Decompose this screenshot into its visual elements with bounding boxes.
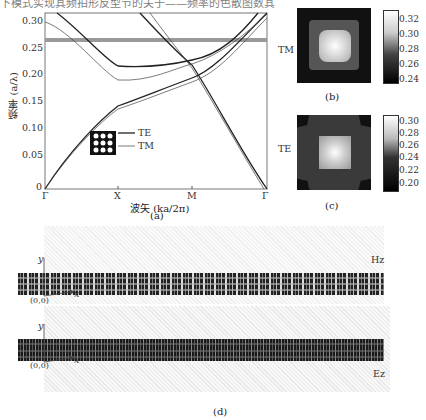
colorbar-tick: 0.30 xyxy=(399,29,419,39)
x-tick: X xyxy=(114,190,121,201)
colorbar-tick: 0.22 xyxy=(399,165,419,175)
y-tick: 0.10 xyxy=(22,122,43,133)
y-tick: 0.30 xyxy=(22,15,43,26)
te-colorbar xyxy=(383,115,399,192)
tm-field-image xyxy=(297,8,371,83)
y-tick: 0.20 xyxy=(22,68,43,79)
hz-origin-label: (0,0) xyxy=(30,296,49,305)
panel-c-label: (c) xyxy=(325,200,338,211)
legend-tm: TM xyxy=(138,140,154,151)
te-side-label: TE xyxy=(278,143,291,154)
colorbar-tick: 0.28 xyxy=(399,44,419,54)
colorbar-tick: 0.24 xyxy=(399,74,419,84)
field-propagation-panel: y x (0,0) Hz y x (0,0) Ez (d) xyxy=(0,226,426,420)
colorbar-tick: 0.28 xyxy=(399,128,419,138)
ez-origin-label: (0,0) xyxy=(30,361,49,370)
tm-colorbar xyxy=(383,10,399,84)
tm-mode-map: TM 0.32 0.30 0.28 0.26 0.24 (b) xyxy=(270,0,426,110)
panel-a-label: (a) xyxy=(150,210,164,221)
hz-field-label: Hz xyxy=(371,254,384,265)
colorbar-tick: 0.30 xyxy=(399,116,419,126)
ez-y-axis-label: y xyxy=(38,320,43,331)
y-tick: 0.15 xyxy=(22,95,43,106)
band-diagram: 0.30 0.25 0.20 0.15 0.10 0.05 0 频率 (a/λ)… xyxy=(0,0,270,220)
tm-side-label: TM xyxy=(278,44,294,55)
te-field-image xyxy=(297,115,371,190)
colorbar-tick: 0.32 xyxy=(399,14,419,24)
hz-y-axis-label: y xyxy=(38,253,43,264)
colorbar-tick: 0.26 xyxy=(399,59,419,69)
x-tick: Γ xyxy=(42,190,49,201)
hz-x-axis-label: x xyxy=(74,288,79,299)
panel-d-label: (d) xyxy=(213,406,227,417)
y-tick: 0.05 xyxy=(22,149,43,160)
ez-field-label: Ez xyxy=(373,368,385,379)
ez-x-axis-label: x xyxy=(74,354,79,365)
y-axis-label: 频率 (a/λ) xyxy=(6,72,21,119)
panel-b-label: (b) xyxy=(325,91,339,102)
colorbar-tick: 0.24 xyxy=(399,152,419,162)
y-tick: 0.25 xyxy=(22,42,43,53)
legend-te: TE xyxy=(138,127,151,138)
te-mode-map: TE 0.30 0.28 0.26 0.24 0.22 0.20 (c) xyxy=(270,112,426,218)
x-tick: Γ xyxy=(262,190,269,201)
colorbar-tick: 0.26 xyxy=(399,140,419,150)
colorbar-tick: 0.20 xyxy=(399,178,419,188)
